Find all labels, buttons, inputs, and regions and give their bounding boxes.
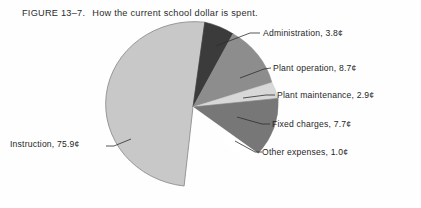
slice-label-instruction: Instruction, 75.9¢ <box>10 139 80 149</box>
slice-label-plant-operation: Plant operation, 8.7¢ <box>273 63 357 73</box>
figure-container: FIGURE 13–7.How the current school dolla… <box>0 0 421 208</box>
slice-label-fixed-charges: Fixed charges, 7.7¢ <box>272 119 351 129</box>
pie-chart <box>0 0 421 208</box>
pie-slice-instruction[interactable] <box>106 22 205 186</box>
slice-label-other-expenses: Other expenses, 1.0¢ <box>262 147 348 157</box>
slice-label-plant-maintenance: Plant maintenance, 2.9¢ <box>277 90 374 100</box>
slice-label-administration: Administration, 3.8¢ <box>263 28 343 38</box>
figure-bottom-rule <box>0 207 421 208</box>
